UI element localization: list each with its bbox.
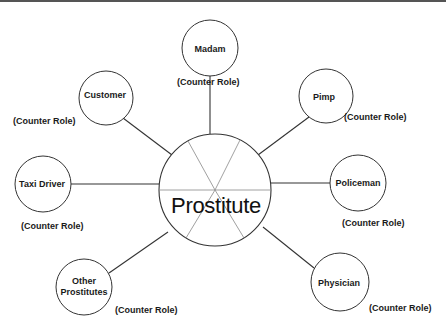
role-label-pimp: (Counter Role)	[344, 112, 407, 122]
role-label-madam: (Counter Role)	[177, 77, 240, 87]
node-label-pimp: Pimp	[313, 92, 335, 103]
node-label-taxi-driver: Taxi Driver	[19, 179, 65, 190]
edge-customer	[123, 118, 176, 158]
edge-physician	[263, 227, 314, 268]
node-label-other-prostitutes: Other Prostitutes	[60, 276, 107, 298]
node-label-physician: Physician	[318, 278, 360, 289]
center-node-prostitute	[159, 134, 271, 246]
edge-pimp	[258, 117, 309, 155]
node-label-customer: Customer	[84, 90, 126, 101]
node-label-other-prostitutes-line1: Other	[60, 276, 107, 287]
edge-other-prostitutes	[109, 232, 168, 273]
role-label-taxi-driver: (Counter Role)	[21, 221, 84, 231]
role-label-policeman: (Counter Role)	[342, 218, 405, 228]
role-label-physician: (Counter Role)	[369, 303, 432, 313]
center-label: Prostitute	[171, 193, 261, 219]
node-label-policeman: Policeman	[335, 178, 380, 189]
node-label-madam: Madam	[194, 44, 225, 55]
role-label-customer: (Counter Role)	[13, 116, 76, 126]
role-label-other-prostitutes: (Counter Role)	[115, 305, 178, 315]
node-label-other-prostitutes-line2: Prostitutes	[60, 287, 107, 298]
